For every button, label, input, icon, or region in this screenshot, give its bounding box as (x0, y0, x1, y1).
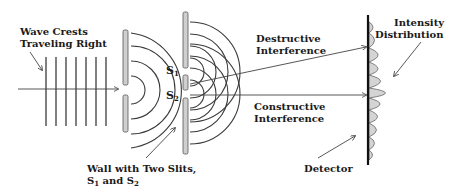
wave-crests-pointer (30, 52, 42, 70)
slit-1-label: S1 (166, 64, 179, 78)
wall-label: Wall with Two Slits, S1 and S2 (86, 163, 200, 188)
slit-2-label: S2 (166, 89, 179, 103)
double-slit-diagram: Wave Crests Traveling Right S1 S2 (0, 0, 455, 196)
detector-label: Detector (304, 163, 353, 174)
constructive-label: Constructive Interference (254, 101, 329, 124)
wall-pointer (146, 128, 175, 158)
detector-pointer (318, 136, 355, 158)
intensity-label: Intensity Distribution (375, 17, 448, 40)
first-wall (123, 30, 128, 132)
wave-crests (46, 57, 106, 126)
slit-2-wavefronts (190, 44, 240, 144)
double-slit-wall (183, 12, 188, 154)
slit-1-wavefronts (190, 22, 240, 122)
wave-crests-label: Wave Crests Traveling Right (19, 26, 107, 49)
intensity-pointer (394, 42, 421, 76)
intensity-distribution (369, 22, 386, 160)
destructive-label: Destructive Interference (256, 33, 326, 56)
